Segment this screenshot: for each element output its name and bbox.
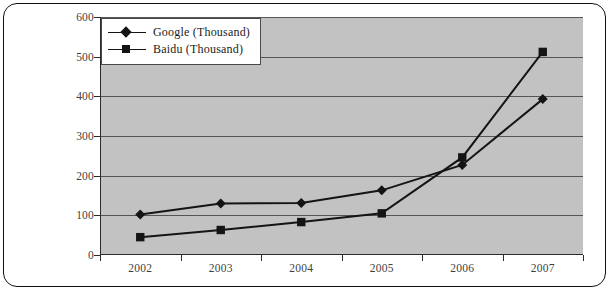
x-axis-tick-mark bbox=[342, 255, 343, 261]
y-axis-tick-label: 0 bbox=[52, 249, 94, 261]
gridline bbox=[101, 96, 583, 97]
x-axis-tick-label: 2005 bbox=[370, 262, 394, 274]
x-axis-tick-label: 2003 bbox=[209, 262, 233, 274]
square-marker-icon bbox=[108, 43, 146, 57]
y-axis-tick-label: 400 bbox=[52, 90, 94, 102]
line-chart: 0100200300400500600 20022003200420052006… bbox=[0, 0, 609, 290]
x-axis-tick-mark bbox=[422, 255, 423, 261]
y-axis-tick-mark bbox=[94, 96, 100, 97]
x-axis-tick-mark bbox=[583, 255, 584, 261]
legend-item-baidu: Baidu (Thousand) bbox=[108, 41, 250, 58]
x-axis-tick-label: 2002 bbox=[128, 262, 152, 274]
x-axis-tick-mark bbox=[261, 255, 262, 261]
y-axis-tick-label: 100 bbox=[52, 209, 94, 221]
y-axis-tick-label: 600 bbox=[52, 11, 94, 23]
x-axis-tick-mark bbox=[503, 255, 504, 261]
legend-label-google: Google (Thousand) bbox=[153, 25, 250, 40]
gridline bbox=[101, 136, 583, 137]
diamond-marker-icon bbox=[108, 26, 146, 40]
x-axis-tick-label: 2004 bbox=[289, 262, 313, 274]
y-axis-tick-label: 500 bbox=[52, 51, 94, 63]
y-axis-tick-mark bbox=[94, 57, 100, 58]
x-axis-tick-label: 2007 bbox=[531, 262, 555, 274]
gridline bbox=[101, 176, 583, 177]
y-axis-tick-mark bbox=[94, 215, 100, 216]
x-axis-tick-label: 2006 bbox=[450, 262, 474, 274]
y-axis-tick-mark bbox=[94, 17, 100, 18]
y-axis-tick-label: 300 bbox=[52, 130, 94, 142]
legend-item-google: Google (Thousand) bbox=[108, 24, 250, 41]
legend-label-baidu: Baidu (Thousand) bbox=[153, 42, 243, 57]
y-axis-tick-mark bbox=[94, 176, 100, 177]
chart-figure: 0100200300400500600 20022003200420052006… bbox=[0, 0, 609, 290]
x-axis-tick-mark bbox=[100, 255, 101, 261]
x-axis-tick-mark bbox=[181, 255, 182, 261]
chart-legend: Google (Thousand) Baidu (Thousand) bbox=[101, 18, 261, 65]
gridline bbox=[101, 215, 583, 216]
y-axis-tick-label: 200 bbox=[52, 170, 94, 182]
y-axis-tick-mark bbox=[94, 136, 100, 137]
